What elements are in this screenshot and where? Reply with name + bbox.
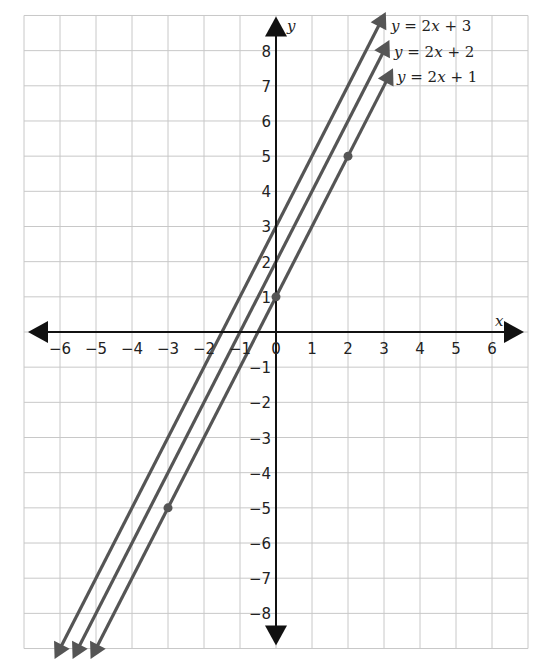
- arrow-up-icon: [265, 16, 287, 36]
- x-tick-label: 4: [415, 340, 425, 358]
- graph-lines: [54, 12, 393, 659]
- x-tick-label: 5: [451, 340, 461, 358]
- x-tick-label: 3: [379, 340, 389, 358]
- data-point: [164, 503, 173, 512]
- x-tick-label: 0: [271, 340, 281, 358]
- x-tick-label: −4: [121, 340, 143, 358]
- y-tick-label: 5: [261, 148, 271, 166]
- x-tick-label: −3: [157, 340, 179, 358]
- x-axis-label: x: [495, 312, 504, 330]
- y-tick-label: 7: [261, 78, 271, 96]
- equation-labels: y = 2x + 3y = 2x + 2y = 2x + 1: [390, 17, 477, 86]
- y-tick-label: −1: [249, 359, 271, 377]
- y-tick-label: 3: [261, 218, 271, 236]
- y-tick-label: 4: [261, 183, 271, 201]
- y-tick-label: 1: [261, 289, 271, 307]
- y-tick-label: −2: [249, 394, 271, 412]
- y-tick-label: −8: [249, 605, 271, 623]
- equation-label: y = 2x + 3: [390, 17, 471, 35]
- y-axis-label: y: [286, 17, 296, 35]
- y-tick-label: −5: [249, 500, 271, 518]
- data-point: [272, 292, 281, 301]
- arrow-down-icon: [265, 626, 287, 646]
- y-tick-label: 2: [261, 254, 271, 272]
- y-tick-label: −4: [249, 465, 271, 483]
- line-series-1: [54, 12, 386, 659]
- y-tick-label: −6: [249, 535, 271, 553]
- y-tick-label: 6: [261, 113, 271, 131]
- line-path: [60, 23, 380, 647]
- y-tick-label: −3: [249, 430, 271, 448]
- line-path: [96, 80, 387, 648]
- data-point: [344, 152, 353, 161]
- y-tick-label: 8: [261, 43, 271, 61]
- arrow-right-icon: [504, 321, 524, 343]
- x-tick-label: −5: [85, 340, 107, 358]
- axes: [28, 16, 524, 645]
- equation-label: y = 2x + 1: [396, 68, 477, 86]
- equation-label: y = 2x + 2: [393, 43, 474, 61]
- x-tick-label: 6: [487, 340, 497, 358]
- x-tick-label: −6: [49, 340, 71, 358]
- arrow-left-icon: [28, 321, 48, 343]
- x-tick-label: 1: [307, 340, 317, 358]
- x-tick-label: −1: [229, 340, 251, 358]
- coordinate-plane: −6−5−4−3−2−1012345687654321−1−2−3−4−5−6−…: [0, 0, 560, 665]
- x-tick-label: 2: [343, 340, 353, 358]
- y-tick-label: −7: [249, 570, 271, 588]
- x-tick-label: −2: [193, 340, 215, 358]
